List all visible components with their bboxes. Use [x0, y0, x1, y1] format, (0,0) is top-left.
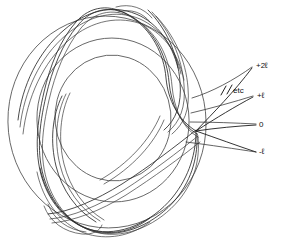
- label-minus-ell: -ℓ: [259, 147, 265, 156]
- winding-curve-right-crossing-1: [148, 10, 180, 130]
- torus-outline-group: [0, 6, 217, 238]
- winding-curve-interior-1: [100, 116, 160, 180]
- label-plus-two-ell: +2ℓ: [256, 61, 268, 70]
- leader-line-plus-two-ell-a: [196, 68, 252, 131]
- winding-curve-lower-sweep-2: [50, 136, 198, 219]
- torus-winding-figure: +2ℓ etc +ℓ 0 -ℓ: [0, 0, 283, 240]
- torus-hole-ellipse: [49, 49, 178, 186]
- winding-curve-lower-sweep-3: [52, 142, 200, 223]
- torus-diagram-canvas: +2ℓ etc +ℓ 0 -ℓ: [0, 0, 283, 240]
- winding-curve-top-arc-1: [18, 9, 178, 120]
- torus-outer-ellipse: [0, 6, 217, 238]
- leader-line-zero-a: [196, 125, 256, 131]
- label-etc: etc: [233, 86, 244, 95]
- leader-line-group: [186, 67, 256, 152]
- leader-line-zero-b: [190, 122, 256, 124]
- etc-tick-mark-1: [221, 86, 226, 95]
- leader-line-plus-ell-b: [191, 96, 253, 113]
- label-zero: 0: [259, 120, 264, 129]
- winding-curve-interior-2: [104, 120, 164, 184]
- label-plus-ell: +ℓ: [257, 91, 265, 100]
- winding-curve-3: [42, 12, 198, 234]
